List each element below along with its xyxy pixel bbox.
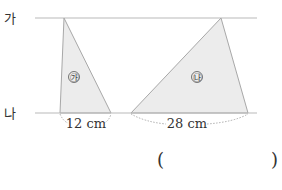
dimension-arc-left bbox=[131, 114, 166, 124]
close-paren: ) bbox=[271, 149, 278, 170]
triangle-na-label: ㉯ bbox=[193, 73, 202, 83]
base-measure-na: 28 cm bbox=[131, 114, 248, 131]
dimension-arc-right bbox=[207, 114, 248, 124]
parallel-lines-triangles-figure: 가 ㉮ ㉯ 나 12 cm 28 cm ( ) bbox=[0, 0, 282, 190]
triangle-na: ㉯ bbox=[131, 18, 248, 113]
answer-blank[interactable]: ( ) bbox=[157, 149, 278, 170]
line-label-ga: 가 bbox=[4, 11, 16, 26]
base-length-na: 28 cm bbox=[167, 116, 207, 131]
triangle-ga-shape bbox=[60, 18, 111, 113]
base-length-ga: 12 cm bbox=[66, 116, 106, 131]
triangle-na-shape bbox=[131, 18, 248, 113]
line-label-na: 나 bbox=[4, 106, 16, 121]
triangle-ga-label: ㉮ bbox=[70, 73, 79, 83]
base-measure-ga: 12 cm bbox=[60, 114, 111, 131]
open-paren: ( bbox=[157, 149, 164, 170]
triangle-ga: ㉮ bbox=[60, 18, 111, 113]
